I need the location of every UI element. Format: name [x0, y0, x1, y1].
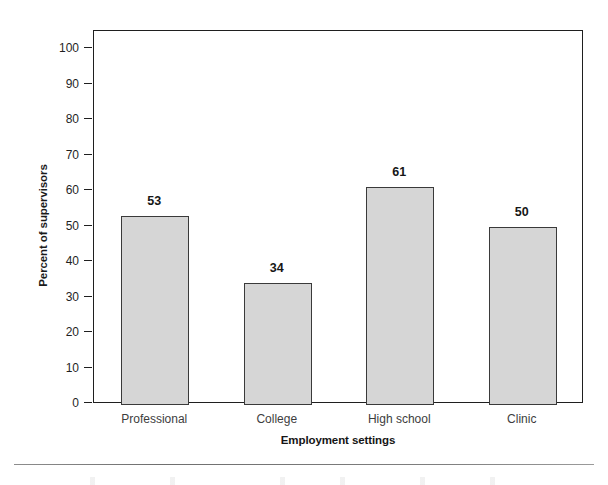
y-axis-tick-mark — [84, 189, 92, 190]
y-axis-tick-label: 100 — [39, 41, 79, 55]
bar — [121, 216, 189, 405]
y-axis-tick-mark — [84, 367, 92, 368]
bar-value-label: 34 — [247, 261, 307, 275]
y-axis-tick-label: 90 — [39, 77, 79, 91]
bar-value-label: 50 — [492, 205, 552, 219]
y-axis-tick: 90 — [33, 77, 93, 91]
y-axis-tick-label: 80 — [39, 112, 79, 126]
y-axis-tick: 20 — [33, 325, 93, 339]
cropped-caption-text — [60, 477, 560, 485]
y-axis-tick: 70 — [33, 148, 93, 162]
y-axis-tick: 50 — [33, 219, 93, 233]
y-axis-tick-mark — [84, 225, 92, 226]
y-axis-tick: 40 — [33, 254, 93, 268]
y-axis-tick-label: 20 — [39, 325, 79, 339]
y-axis-tick: 80 — [33, 112, 93, 126]
x-axis-category-label: High school — [339, 412, 459, 426]
y-axis-tick: 0 — [33, 396, 93, 410]
y-axis-tick: 100 — [33, 41, 93, 55]
y-axis-tick-label: 60 — [39, 183, 79, 197]
y-axis-tick-mark — [84, 47, 92, 48]
y-axis-tick: 30 — [33, 290, 93, 304]
bar — [244, 283, 312, 405]
y-axis-tick-label: 50 — [39, 219, 79, 233]
bar-value-label: 53 — [124, 194, 184, 208]
y-axis-tick-label: 40 — [39, 254, 79, 268]
y-axis-tick-label: 10 — [39, 361, 79, 375]
y-axis-tick-mark — [84, 154, 92, 155]
y-axis-tick-mark — [84, 296, 92, 297]
y-axis-tick-label: 30 — [39, 290, 79, 304]
bottom-divider-rule — [14, 464, 594, 465]
y-axis-tick-mark — [84, 260, 92, 261]
bar — [489, 227, 557, 406]
y-axis-tick-mark — [84, 83, 92, 84]
y-axis-tick-mark — [84, 118, 92, 119]
y-axis-tick-mark — [84, 331, 92, 332]
y-axis-tick: 60 — [33, 183, 93, 197]
y-axis-tick: 10 — [33, 361, 93, 375]
x-axis-category-label: College — [217, 412, 337, 426]
y-axis-tick-label: 70 — [39, 148, 79, 162]
bar-chart-figure: Percent of supervisors 01020304050607080… — [0, 0, 608, 485]
y-axis-tick-label: 0 — [39, 396, 79, 410]
x-axis-category-label: Clinic — [462, 412, 582, 426]
bar — [366, 187, 434, 405]
bar-value-label: 61 — [369, 165, 429, 179]
x-axis-category-label: Professional — [94, 412, 214, 426]
y-axis-tick-mark — [84, 402, 92, 403]
x-axis-title: Employment settings — [93, 434, 583, 446]
